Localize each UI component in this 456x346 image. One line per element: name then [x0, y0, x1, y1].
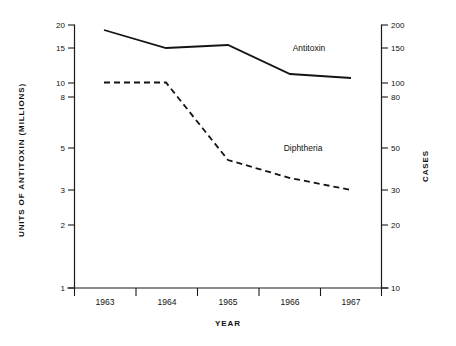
right-tick-label-100: 100: [391, 79, 405, 88]
year-label-1964: 1964: [158, 297, 177, 307]
series-label-antitoxin: Antitoxin: [293, 43, 326, 53]
x-axis-year-labels: 1963 1964 1965 1966 1967: [96, 297, 361, 307]
series-line-diphtheria: [104, 83, 351, 191]
right-tick-label-200: 200: [391, 21, 405, 30]
right-axis-ticks: [382, 25, 389, 288]
series-label-diphtheria: Diphtheria: [284, 143, 323, 153]
left-tick-label-5: 5: [61, 144, 66, 153]
x-axis-ticks: [75, 288, 382, 296]
x-axis-title: YEAR: [215, 319, 241, 328]
y2-axis-title: CASES: [421, 150, 430, 182]
right-tick-label-20: 20: [391, 221, 400, 230]
left-tick-label-20: 20: [56, 21, 65, 30]
left-tick-label-2: 2: [61, 221, 66, 230]
series-line-antitoxin: [104, 30, 351, 78]
year-label-1967: 1967: [342, 297, 361, 307]
chart-page: 20 15 10 8 5 3 2 1 200 150 100 80 50: [0, 0, 456, 346]
right-tick-label-30: 30: [391, 186, 400, 195]
right-tick-label-80: 80: [391, 93, 400, 102]
left-tick-label-15: 15: [56, 44, 65, 53]
y-axis-title: UNITS OF ANTITOXIN (MILLIONS): [17, 83, 26, 237]
year-label-1963: 1963: [96, 297, 115, 307]
left-axis-ticks: [68, 25, 75, 288]
right-tick-label-150: 150: [391, 44, 405, 53]
year-label-1965: 1965: [219, 297, 238, 307]
right-tick-label-10: 10: [391, 284, 400, 293]
year-label-1966: 1966: [281, 297, 300, 307]
right-tick-label-50: 50: [391, 144, 400, 153]
diphtheria-antitoxin-chart: 20 15 10 8 5 3 2 1 200 150 100 80 50: [0, 0, 456, 346]
left-tick-label-8: 8: [61, 93, 66, 102]
right-axis-tick-labels: 200 150 100 80 50 30 20 10: [391, 21, 405, 293]
left-tick-label-10: 10: [56, 79, 65, 88]
left-tick-label-3: 3: [61, 186, 66, 195]
left-axis-tick-labels: 20 15 10 8 5 3 2 1: [56, 21, 65, 293]
left-tick-label-1: 1: [61, 284, 66, 293]
